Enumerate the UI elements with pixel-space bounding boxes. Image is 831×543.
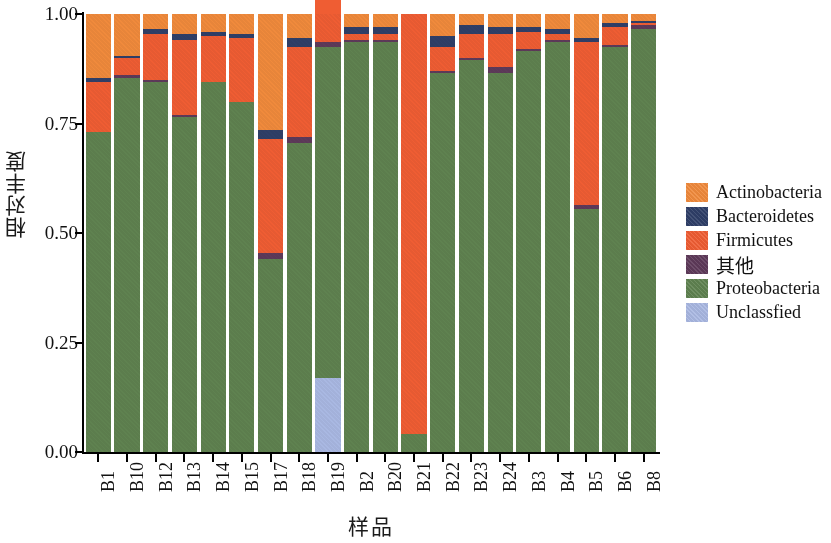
- x-tick-label: B2: [357, 472, 377, 492]
- x-tick-label: B15: [242, 472, 262, 492]
- x-tick-label: B12: [156, 472, 176, 492]
- y-tick-mark: [75, 232, 83, 234]
- y-tick-mark: [75, 13, 83, 15]
- x-tick-label: B24: [500, 472, 520, 492]
- legend-label: Proteobacteria: [716, 278, 820, 299]
- legend-label: Bacteroidetes: [716, 206, 814, 227]
- x-tick-label: B17: [271, 472, 291, 492]
- legend-swatch-icon: [686, 255, 708, 274]
- x-tick-label: B20: [385, 472, 405, 492]
- x-tick-label: B14: [213, 472, 233, 492]
- y-tick-label: 1.00: [26, 3, 78, 25]
- legend-item: 其他: [686, 252, 831, 276]
- legend-swatch-icon: [686, 231, 708, 250]
- y-tick-label: 0.25: [26, 332, 78, 354]
- y-tick-mark: [75, 451, 83, 453]
- legend-swatch-icon: [686, 183, 708, 202]
- legend-swatch-icon: [686, 279, 708, 298]
- y-axis-tick-labels: 0.000.250.500.751.00: [20, 0, 78, 543]
- y-tick-label: 0.00: [26, 441, 78, 463]
- x-tick-label: B13: [184, 472, 204, 492]
- legend-item: Unclassfied: [686, 300, 831, 324]
- y-tick-label: 0.75: [26, 113, 78, 135]
- x-tick-label: B22: [443, 472, 463, 492]
- x-tick-label: B10: [127, 472, 147, 492]
- legend-item: Bacteroidetes: [686, 204, 831, 228]
- stacked-bar-chart-figure: 相对丰度 0.000.250.500.751.00 B1B10B12B13B14…: [0, 0, 831, 543]
- x-tick-label: B19: [328, 472, 348, 492]
- legend-swatch-icon: [686, 303, 708, 322]
- x-tick-label: B23: [471, 472, 491, 492]
- legend-swatch-icon: [686, 207, 708, 226]
- x-tick-label: B1: [98, 472, 118, 492]
- legend: ActinobacteriaBacteroidetesFirmicutes其他P…: [686, 180, 831, 324]
- y-tick-label: 0.50: [26, 222, 78, 244]
- legend-item: Actinobacteria: [686, 180, 831, 204]
- y-tick-mark: [75, 342, 83, 344]
- x-tick-label: B6: [615, 472, 635, 492]
- x-tick-label: B8: [644, 472, 664, 492]
- x-tick-label: B3: [529, 472, 549, 492]
- y-tick-mark: [75, 123, 83, 125]
- legend-item: Proteobacteria: [686, 276, 831, 300]
- legend-label: 其他: [716, 251, 754, 278]
- legend-item: Firmicutes: [686, 228, 831, 252]
- x-tick-label: B4: [558, 472, 578, 492]
- x-axis-tick-labels: B1B10B12B13B14B15B17B18B19B2B20B21B22B23…: [84, 0, 684, 543]
- x-tick-label: B5: [586, 472, 606, 492]
- legend-label: Actinobacteria: [716, 182, 822, 203]
- legend-label: Firmicutes: [716, 230, 793, 251]
- legend-label: Unclassfied: [716, 302, 801, 323]
- x-axis-title: 样品: [84, 510, 658, 540]
- x-tick-label: B18: [299, 472, 319, 492]
- x-tick-label: B21: [414, 472, 434, 492]
